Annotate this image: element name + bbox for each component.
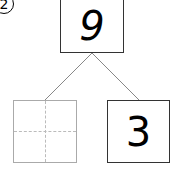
total-number-box: 9 <box>60 0 124 53</box>
part-number: 3 <box>126 109 151 155</box>
answer-box[interactable] <box>13 100 77 163</box>
total-number: 9 <box>79 3 104 49</box>
part-number-box: 3 <box>107 100 170 163</box>
guide-line-horizontal <box>14 131 76 132</box>
